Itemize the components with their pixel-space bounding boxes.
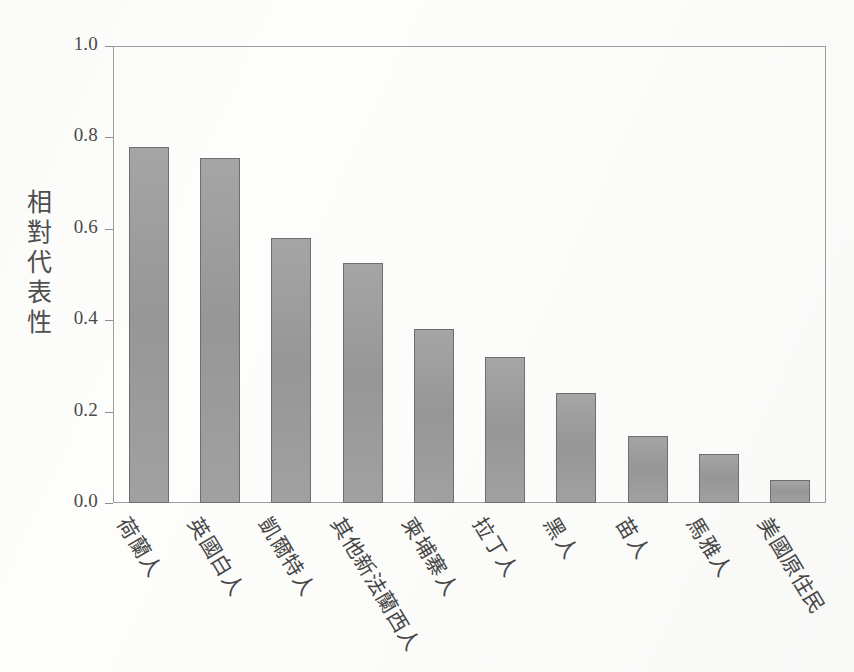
y-axis-tick-label: 0.8 <box>52 124 98 146</box>
x-axis-tick-label: 黑人 <box>539 511 587 563</box>
y-axis-tick-mark <box>105 137 113 138</box>
x-axis-tick-label: 馬雅人 <box>681 511 740 582</box>
x-axis-tick-label: 拉丁人 <box>467 511 526 582</box>
bar <box>628 436 668 503</box>
y-axis-title-char: 代 <box>22 248 56 278</box>
x-axis-labels: 荷蘭人英國白人凱爾特人其他新法蘭西人柬埔寨人拉丁人黑人苗人馬雅人美國原住民 <box>113 503 826 672</box>
y-axis-title-char: 性 <box>22 308 56 338</box>
y-axis-tick-mark <box>105 229 113 230</box>
y-axis-tick-label: 0.6 <box>52 216 98 238</box>
x-axis-tick-label: 英國白人 <box>182 511 252 600</box>
bar <box>485 357 525 503</box>
y-axis-tick-label: 0.0 <box>52 490 98 512</box>
y-axis-title-char: 相 <box>22 188 56 218</box>
y-axis-tick-mark <box>105 503 113 504</box>
y-axis-tick-label: 0.2 <box>52 399 98 421</box>
bar <box>770 480 810 503</box>
bar <box>343 263 383 503</box>
x-axis-tick-label: 苗人 <box>610 511 658 563</box>
y-axis-tick-mark <box>105 46 113 47</box>
x-axis-tick-label: 美國原住民 <box>753 511 834 619</box>
y-axis-tick-mark <box>105 320 113 321</box>
y-axis-tick-mark <box>105 412 113 413</box>
y-axis-tick-label: 0.4 <box>52 307 98 329</box>
bar <box>699 454 739 503</box>
bar <box>271 238 311 503</box>
x-axis-tick-label: 荷蘭人 <box>111 511 170 582</box>
y-axis-title-char: 表 <box>22 278 56 308</box>
bars-container <box>113 46 826 503</box>
x-axis-tick-label: 凱爾特人 <box>254 511 324 600</box>
bar <box>129 147 169 503</box>
y-axis-tick-label: 1.0 <box>52 33 98 55</box>
bar <box>200 158 240 503</box>
bar-chart-figure: 相對代表性 0.00.20.40.60.81.0 荷蘭人英國白人凱爾特人其他新法… <box>0 0 854 672</box>
y-axis-title: 相對代表性 <box>22 188 56 338</box>
x-axis-tick-label: 柬埔寨人 <box>396 511 466 600</box>
bar <box>556 393 596 503</box>
y-axis-title-char: 對 <box>22 218 56 248</box>
bar <box>414 329 454 503</box>
